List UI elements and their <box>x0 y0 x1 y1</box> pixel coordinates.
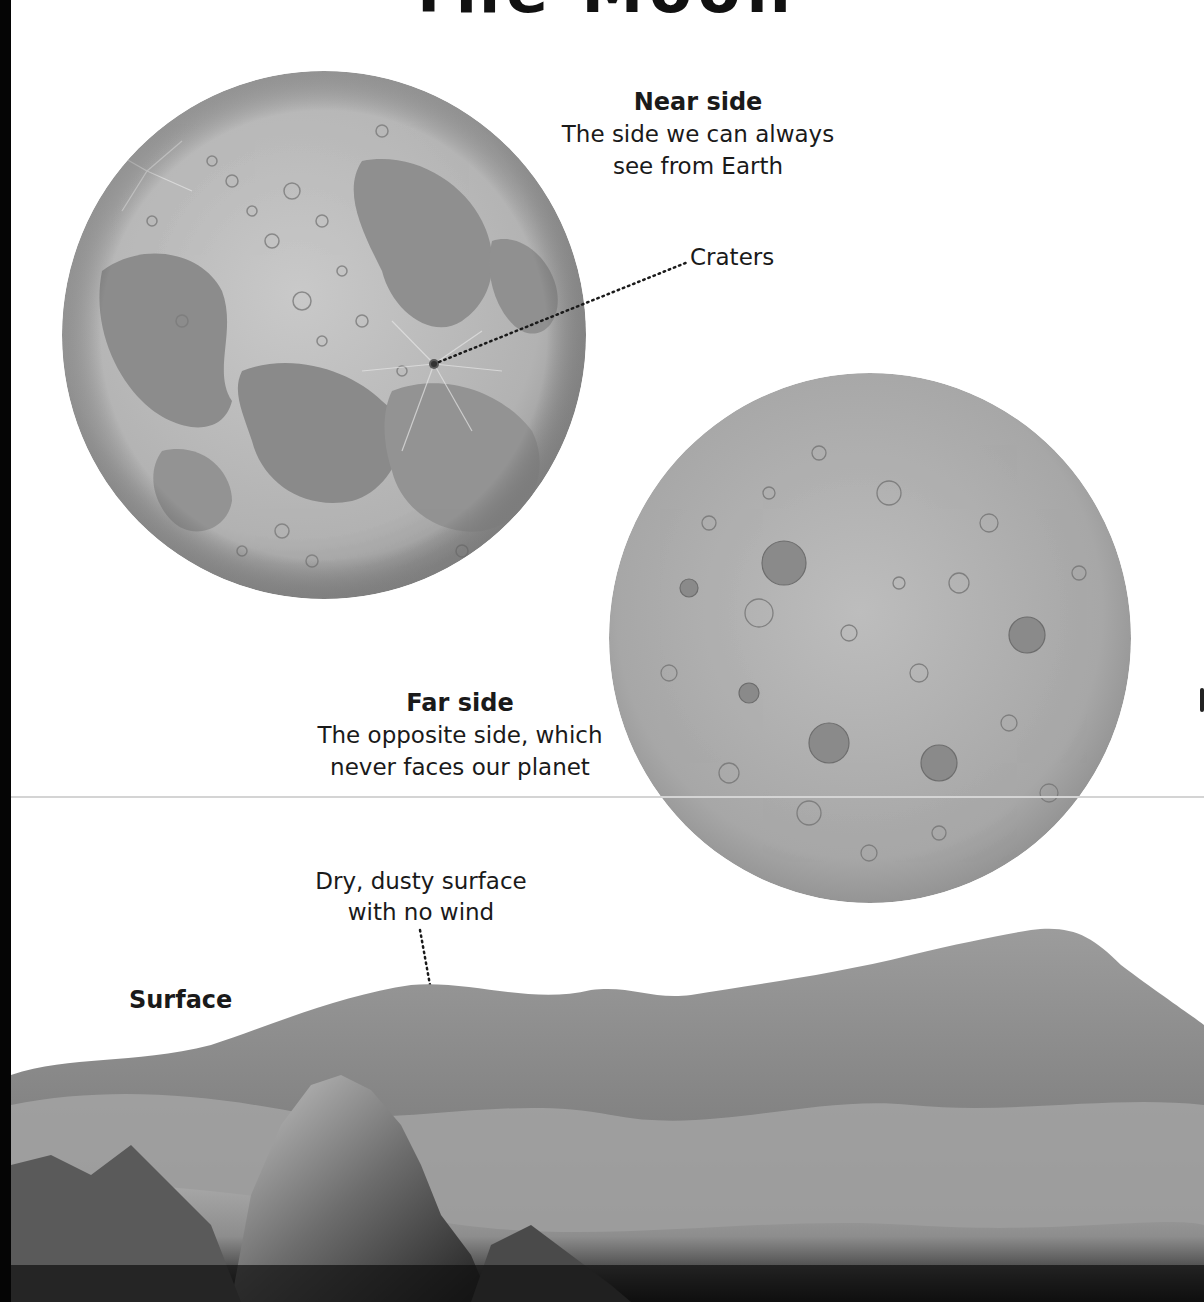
far-side-description-line1: The opposite side, which <box>300 719 620 751</box>
near-side-heading: Near side <box>548 86 848 118</box>
far-side-label: Far side The opposite side, which never … <box>300 687 620 783</box>
far-side-heading: Far side <box>300 687 620 719</box>
page-edge-mark <box>1200 688 1204 712</box>
far-side-moon-image <box>609 373 1131 903</box>
near-side-moon-image <box>62 71 586 599</box>
dusty-surface-callout-line2: with no wind <box>348 899 494 925</box>
section-divider <box>11 796 1204 798</box>
craters-callout: Craters <box>690 244 774 270</box>
page-title: The Moon <box>0 0 1204 27</box>
surface-heading: Surface <box>129 986 232 1014</box>
near-side-description-line1: The side we can always <box>548 118 848 150</box>
dusty-surface-callout-line1: Dry, dusty surface <box>315 868 527 894</box>
dusty-surface-callout: Dry, dusty surface with no wind <box>290 866 552 928</box>
lunar-surface-landscape-image <box>11 925 1204 1302</box>
near-side-description-line2: see from Earth <box>548 150 848 182</box>
far-side-description-line2: never faces our planet <box>300 751 620 783</box>
near-side-label: Near side The side we can always see fro… <box>548 86 848 182</box>
page-edge-left <box>0 0 11 1302</box>
